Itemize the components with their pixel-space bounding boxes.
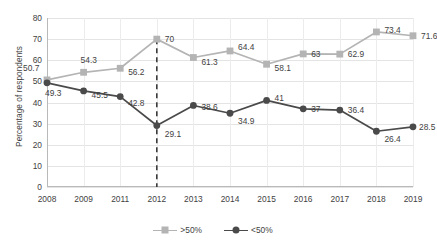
legend-swatch (153, 226, 177, 235)
x-axis-tick-label: 2015 (257, 194, 276, 204)
plot-area: 01020304050607080 2008200920112012201320… (47, 18, 413, 187)
x-axis-tick-label: 2009 (74, 194, 93, 204)
data-point-marker (44, 79, 51, 86)
y-axis-tick-label: 40 (33, 98, 42, 108)
y-axis-tick-label: 20 (33, 140, 42, 150)
series-plot (47, 18, 413, 187)
data-point-marker (410, 32, 417, 39)
data-point-marker (336, 51, 343, 58)
data-point-marker (227, 48, 234, 55)
x-axis-tick-label: 2018 (367, 194, 386, 204)
series-line (47, 83, 413, 131)
x-axis-tick-label: 2017 (330, 194, 349, 204)
x-axis-tick-label: 2013 (184, 194, 203, 204)
legend-item[interactable]: <50% (224, 225, 273, 235)
y-axis-tick-label: 70 (33, 34, 42, 44)
data-point-marker (227, 110, 234, 117)
data-point-marker (80, 69, 87, 76)
data-point-marker (300, 51, 307, 58)
data-point-marker (300, 105, 307, 112)
data-point-marker (336, 107, 343, 114)
legend-swatch (224, 226, 248, 235)
legend-square-marker-icon (162, 227, 169, 234)
x-axis-tick-label: 2014 (221, 194, 240, 204)
gridline (47, 187, 413, 188)
data-point-marker (153, 36, 160, 43)
data-point-label: 71.6 (421, 31, 437, 41)
chart-legend: >50%<50% (0, 225, 426, 235)
data-point-marker (80, 87, 87, 94)
y-axis-tick-label: 80 (33, 13, 42, 23)
legend-label: <50% (251, 225, 273, 235)
data-point-marker (373, 128, 380, 135)
x-axis-tick-label: 2008 (38, 194, 57, 204)
data-point-marker (410, 123, 417, 130)
data-point-marker (190, 54, 197, 61)
legend-label: >50% (180, 225, 202, 235)
x-axis-tick-label: 2012 (147, 194, 166, 204)
data-point-label: 28.5 (419, 122, 435, 132)
data-point-marker (153, 122, 160, 129)
y-axis-tick-label: 10 (33, 161, 42, 171)
y-axis-title: Percentage of respondents (15, 12, 24, 182)
legend-item[interactable]: >50% (153, 225, 202, 235)
data-point-marker (373, 29, 380, 36)
data-point-marker (263, 97, 270, 104)
data-point-marker (190, 102, 197, 109)
vertical-gridline (413, 18, 414, 187)
data-point-marker (263, 61, 270, 68)
x-axis-tick-label: 2011 (111, 194, 129, 204)
series-line (47, 32, 413, 80)
y-axis-tick-label: 50 (33, 76, 42, 86)
y-axis-tick-label: 60 (33, 55, 42, 65)
data-point-marker (117, 65, 124, 72)
x-axis-tick-label: 2019 (404, 194, 423, 204)
y-axis-tick-label: 0 (37, 182, 42, 192)
x-axis-tick-label: 2016 (294, 194, 313, 204)
y-axis-tick-label: 30 (33, 119, 42, 129)
data-point-marker (117, 93, 124, 100)
legend-circle-marker-icon (233, 227, 240, 234)
